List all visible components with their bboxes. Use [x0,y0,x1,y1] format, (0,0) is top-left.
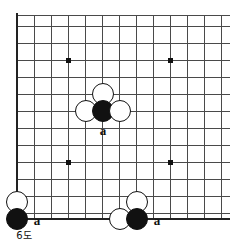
star-point-3 [168,160,173,165]
go-diagram-figure: aaa 6도 [0,0,247,252]
point-label-a-bottom-right: a [154,214,161,227]
star-point-2 [66,160,71,165]
point-label-a-center: a [100,124,107,137]
star-point-1 [168,58,173,63]
black-stone-bottom-left[interactable] [6,208,28,230]
white-stone-center-right[interactable] [109,100,131,122]
figure-caption: 6도 [16,231,31,241]
star-point-0 [66,58,71,63]
point-label-a-bottom-left: a [34,214,41,227]
black-stone-bottom-right[interactable] [126,208,148,230]
